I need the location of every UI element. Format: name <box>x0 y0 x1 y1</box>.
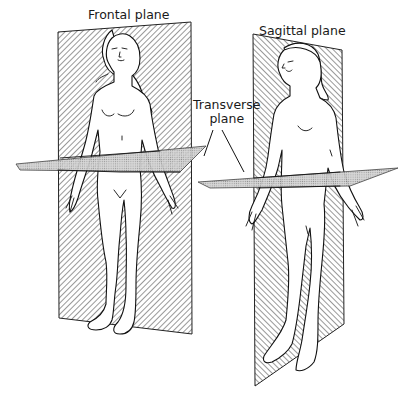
transverse-label-line2: plane <box>193 112 260 126</box>
right-figure-group <box>198 34 398 386</box>
left-figure-group <box>16 22 206 334</box>
transverse-label-line1: Transverse <box>193 98 260 112</box>
transverse-plane-label: Transverse plane <box>193 98 260 127</box>
diagram-canvas <box>0 0 412 401</box>
sagittal-plane-label: Sagittal plane <box>259 24 346 38</box>
anatomical-planes-figure: Frontal plane Sagittal plane Transverse … <box>0 0 412 401</box>
frontal-plane-label: Frontal plane <box>88 8 169 22</box>
transverse-leader-left <box>204 130 213 156</box>
transverse-leader-right <box>222 130 244 172</box>
